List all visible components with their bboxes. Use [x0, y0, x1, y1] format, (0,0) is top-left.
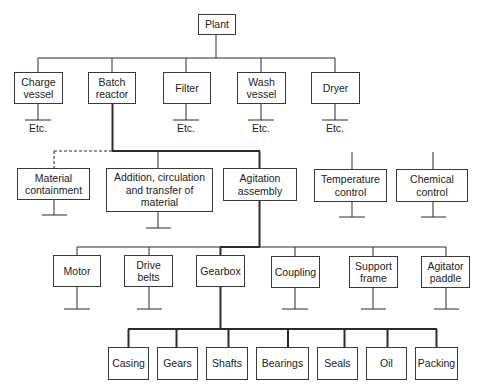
node-chemical-control: Chemicalcontrol: [396, 169, 468, 202]
etc-label: Etc.: [18, 122, 58, 134]
etc-label: Etc.: [241, 122, 281, 134]
node-packing: Packing: [415, 347, 458, 380]
node-temperature-control: Temperaturecontrol: [314, 169, 387, 202]
node-motor: Motor: [53, 255, 101, 287]
node-oil: Oil: [366, 347, 407, 380]
node-plant: Plant: [198, 14, 236, 35]
node-label: Casing: [112, 357, 145, 370]
node-label: Gears: [163, 357, 192, 370]
node-drive-belts: Drivebelts: [124, 255, 173, 287]
node-label: Plant: [205, 18, 229, 31]
node-shafts: Shafts: [206, 347, 248, 380]
node-label: Washvessel: [247, 76, 277, 101]
node-label: Oil: [380, 357, 393, 370]
node-label: Supportframe: [355, 260, 392, 285]
node-label: Gearbox: [200, 265, 240, 278]
node-label: Packing: [418, 357, 455, 370]
node-batch-reactor: Batchreactor: [88, 72, 136, 104]
node-coupling: Coupling: [271, 256, 320, 288]
node-agitation-assembly: Agitationassembly: [223, 168, 297, 201]
node-label: Bearings: [262, 357, 303, 370]
node-label: Motor: [64, 265, 91, 278]
node-label: Temperaturecontrol: [321, 173, 380, 198]
node-label: Chargevessel: [21, 76, 55, 101]
node-wash-vessel: Washvessel: [237, 72, 286, 104]
node-gears: Gears: [157, 347, 198, 380]
node-label: Filter: [175, 82, 198, 95]
node-charge-vessel: Chargevessel: [14, 72, 63, 104]
node-label: Chemicalcontrol: [410, 173, 454, 198]
node-addition-circulation-transfer: Addition, circulationand transfer ofmate…: [106, 168, 213, 212]
node-label: Agitationassembly: [238, 172, 282, 197]
node-seals: Seals: [317, 347, 358, 380]
node-support-frame: Supportframe: [349, 256, 398, 288]
node-label: Agitatorpaddle: [427, 260, 463, 285]
etc-label: Etc.: [166, 122, 206, 134]
node-label: Seals: [324, 357, 350, 370]
node-bearings: Bearings: [256, 347, 309, 380]
node-label: Batchreactor: [96, 76, 129, 101]
node-label: Coupling: [275, 266, 316, 279]
node-label: Drivebelts: [136, 259, 161, 284]
node-label: Addition, circulationand transfer ofmate…: [114, 171, 205, 209]
etc-label: Etc.: [315, 122, 355, 134]
node-casing: Casing: [108, 347, 149, 380]
node-label: Shafts: [212, 357, 242, 370]
node-filter: Filter: [163, 72, 211, 104]
node-dryer: Dryer: [311, 72, 360, 104]
node-label: Dryer: [323, 82, 349, 95]
node-material-containment: Materialcontainment: [17, 168, 90, 200]
node-gearbox: Gearbox: [196, 255, 245, 287]
node-agitator-paddle: Agitatorpaddle: [421, 256, 470, 288]
node-label: Materialcontainment: [25, 172, 82, 197]
